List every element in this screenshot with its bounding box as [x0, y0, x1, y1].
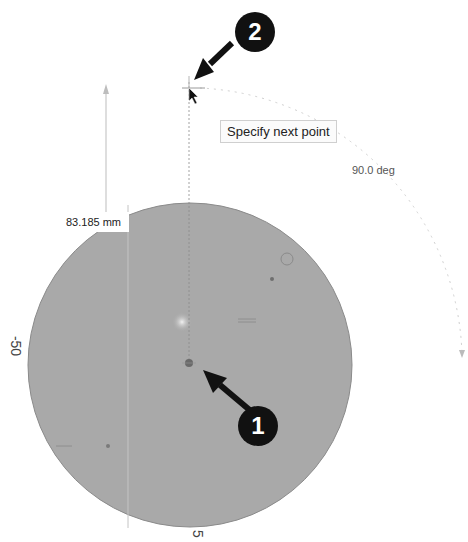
- callout-2-badge: 2: [235, 12, 275, 52]
- dimension-input[interactable]: 83.185 mm: [58, 212, 129, 232]
- angle-arrow-icon: [459, 350, 465, 358]
- point-marker-2: [106, 444, 110, 448]
- dimension-arrow-icon: [103, 84, 109, 94]
- mouse-cursor-icon: [189, 88, 198, 104]
- callout-1-badge: 1: [238, 406, 278, 446]
- axis-label-left: -50: [8, 336, 24, 356]
- command-prompt-tooltip: Specify next point: [220, 120, 337, 143]
- axis-label-bottom: 5: [190, 530, 206, 538]
- callout-2-arrow: [210, 43, 232, 64]
- point-marker: [270, 277, 274, 281]
- sketch-canvas[interactable]: [0, 0, 468, 542]
- angle-value: 90.0 deg: [352, 164, 395, 176]
